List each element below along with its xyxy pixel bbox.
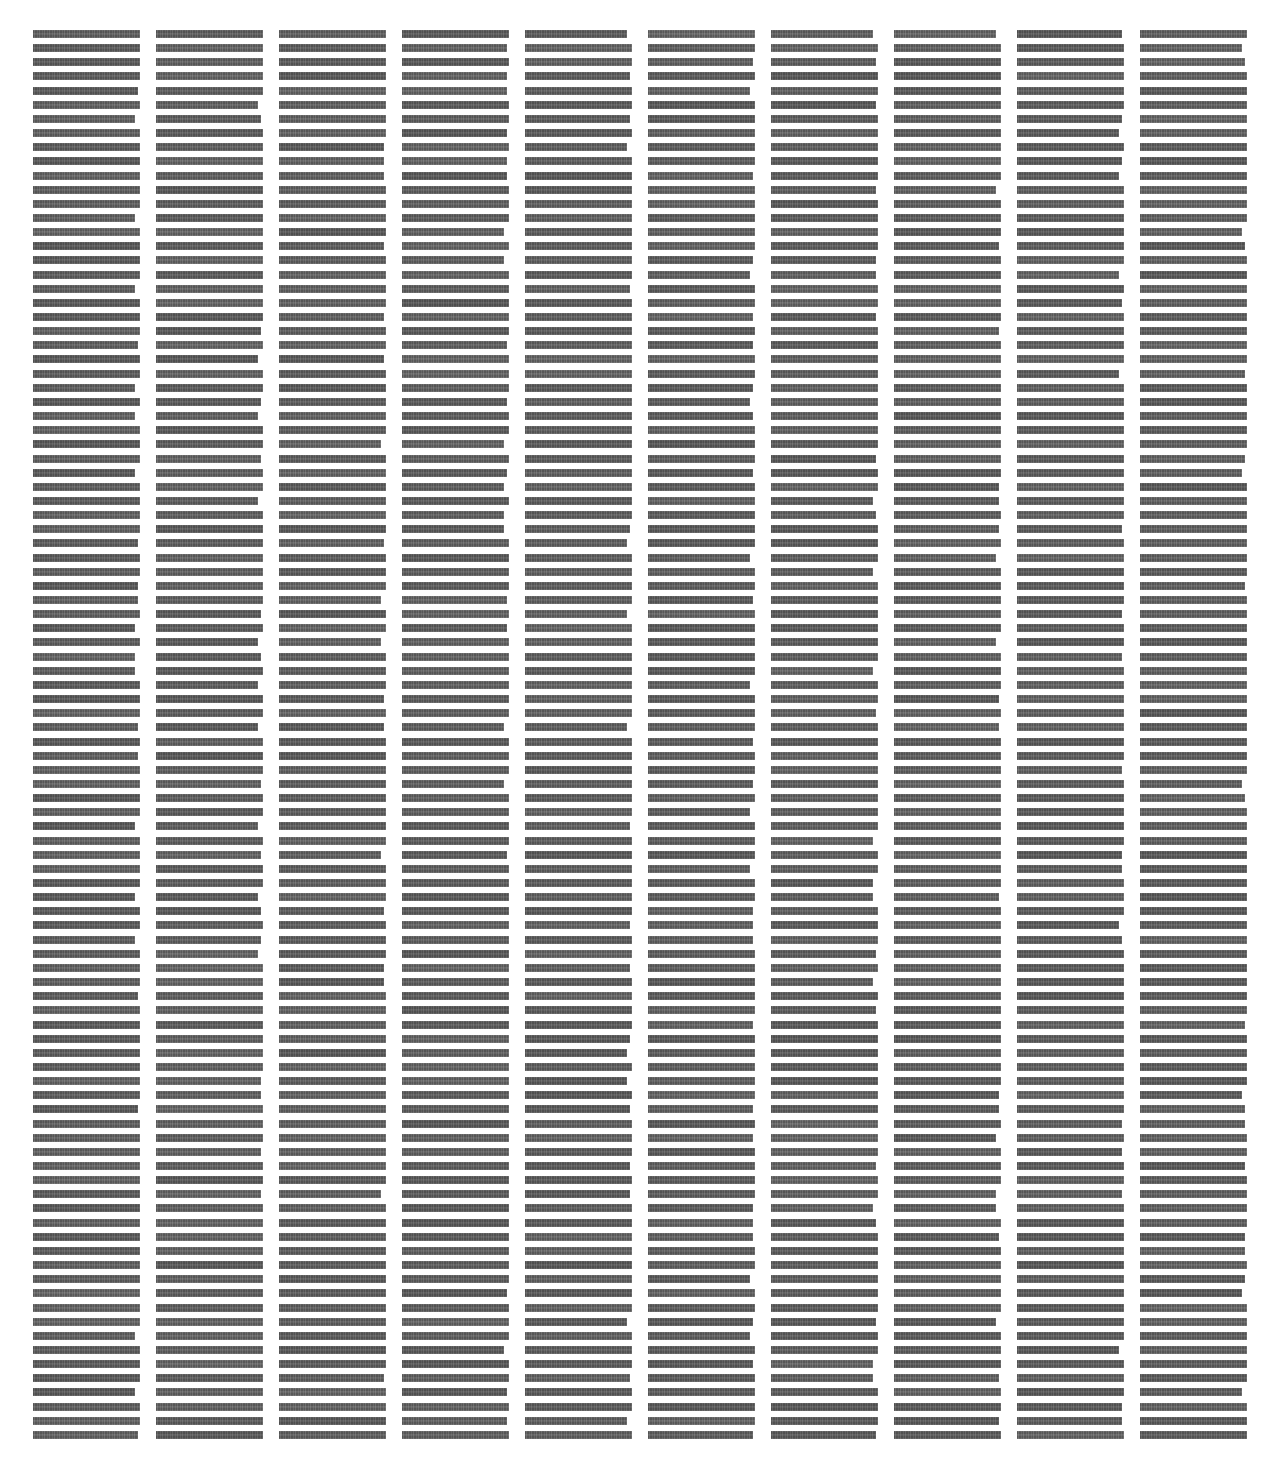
redacted-text-line [525,129,632,137]
redacted-text-line [279,313,384,321]
redacted-text-line [1017,87,1124,95]
redacted-text-line [771,299,878,307]
redacted-text-line [1140,143,1247,151]
redacted-text-line [648,752,755,760]
redacted-text-line [894,1318,996,1326]
redacted-text-line [279,1077,386,1085]
redacted-text-line [1017,186,1124,194]
redacted-text-line [156,1403,263,1411]
redacted-text-line [1017,30,1122,38]
redacted-text-line [33,893,135,901]
redacted-text-line [525,582,632,590]
redacted-text-line [1017,1261,1124,1269]
redacted-text-line [525,186,632,194]
redacted-text-line [1140,1431,1247,1439]
redacted-text-line [33,1374,140,1382]
redacted-text-line [279,271,386,279]
redacted-text-line [894,1332,1001,1340]
redacted-text-line [33,907,140,915]
redacted-text-line [402,285,509,293]
redacted-text-line [1140,313,1247,321]
redacted-text-line [771,610,878,618]
redacted-text-line [894,1049,1001,1057]
redacted-text-line [402,172,507,180]
redacted-text-line [156,1318,263,1326]
redacted-text-line [1140,129,1247,137]
redacted-text-line [771,355,878,363]
redacted-text-line [156,72,263,80]
redacted-text-line [648,30,755,38]
redacted-text-line [525,341,632,349]
redacted-text-line [402,1035,509,1043]
redacted-text-line [525,624,632,632]
redacted-text-line [771,143,878,151]
redacted-text-line [156,766,263,774]
redacted-text-line [1017,1162,1124,1170]
redacted-text-line [894,738,1001,746]
redacted-text-line [648,469,753,477]
redacted-text-line [402,341,507,349]
redacted-text-line [279,667,386,675]
redacted-text-line [402,313,509,321]
redacted-text-line [33,1332,135,1340]
redacted-text-line [402,539,509,547]
redacted-text-line [156,341,263,349]
redacted-text-line [525,1417,627,1425]
redacted-text-line [894,539,1001,547]
redacted-text-line [771,667,873,675]
redacted-text-line [156,1190,261,1198]
redacted-text-line [1140,936,1247,944]
redacted-text-line [33,1219,140,1227]
redacted-text-line [648,341,753,349]
redacted-text-line [402,1120,509,1128]
redacted-text-line [1140,1063,1247,1071]
redacted-text-line [402,893,509,901]
redacted-text-line [1017,1077,1124,1085]
redacted-text-line [402,822,509,830]
redacted-text-line [1140,1190,1247,1198]
redacted-text-line [1017,780,1124,788]
redacted-text-line [525,1360,632,1368]
redacted-text-line [156,1204,263,1212]
redacted-text-line [402,469,507,477]
redacted-text-line [1140,1091,1242,1099]
redacted-text-line [771,596,878,604]
redacted-text-line [525,1105,630,1113]
redacted-text-line [156,242,263,250]
redacted-document-page [0,0,1268,1464]
redacted-text-line [279,242,384,250]
redacted-text-line [525,921,630,929]
redacted-text-line [156,1332,263,1340]
redacted-text-line [894,1006,1001,1014]
redacted-text-line [894,143,1001,151]
redacted-text-line [894,101,1001,109]
redacted-text-line [894,200,1001,208]
redacted-text-line [156,157,263,165]
redacted-text-line [402,808,509,816]
redacted-text-line [33,978,140,986]
redacted-text-line [894,313,1001,321]
redacted-text-line [1140,695,1247,703]
redacted-text-line [33,1417,140,1425]
redacted-text-line [648,851,755,859]
redacted-text-line [771,1021,878,1029]
redacted-text-line [1140,596,1247,604]
redacted-text-line [771,256,876,264]
redacted-text-line [525,44,632,52]
redacted-text-line [648,1077,755,1085]
redacted-text-line [279,115,386,123]
redacted-text-line [771,87,878,95]
redacted-text-line [1140,610,1247,618]
redacted-text-line [525,1403,632,1411]
redacted-text-line [1017,1120,1122,1128]
redacted-text-line [1140,978,1247,986]
redacted-text-line [1140,822,1247,830]
redacted-text-line [1017,554,1124,562]
redacted-text-line [1140,440,1247,448]
redacted-text-line [525,667,632,675]
redacted-text-line [402,1289,507,1297]
redacted-text-line [1140,1417,1247,1425]
redacted-text-line [279,766,386,774]
redacted-text-line [1017,525,1122,533]
redacted-text-line [279,44,386,52]
